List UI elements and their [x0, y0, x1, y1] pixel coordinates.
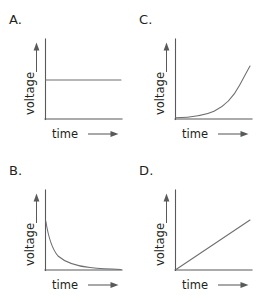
panel-b-curve-exponential-decay	[46, 221, 121, 269]
panel-d-x-label: time	[182, 278, 208, 292]
panel-d-plot: voltage time	[130, 151, 259, 302]
panel-b-y-arrow-head	[34, 194, 40, 202]
panel-b-x-arrow-head	[111, 282, 119, 288]
panel-a-x-label: time	[52, 127, 78, 141]
panel-d: D. voltage time	[130, 151, 259, 302]
panel-a-y-arrow-head	[34, 43, 40, 51]
panel-d-y-arrow-head	[164, 194, 170, 202]
panel-c-y-label: voltage	[153, 72, 167, 115]
panel-c-x-arrow-head	[241, 131, 249, 137]
panel-a: A. voltage time	[0, 0, 129, 151]
panel-c: C. voltage time	[130, 0, 259, 151]
panel-b-x-label: time	[52, 278, 78, 292]
panel-d-x-arrow-head	[241, 282, 249, 288]
panel-d-y-label: voltage	[153, 223, 167, 266]
panel-b: B. voltage time	[0, 151, 129, 302]
panel-a-y-label: voltage	[23, 72, 37, 115]
panel-b-plot: voltage time	[0, 151, 129, 302]
panel-a-x-arrow-head	[111, 131, 119, 137]
panel-c-curve-exponential-growth	[176, 66, 251, 118]
panel-a-plot: voltage time	[0, 0, 129, 151]
panel-c-x-label: time	[182, 127, 208, 141]
panel-c-plot: voltage time	[130, 0, 259, 151]
panel-d-curve-linear	[176, 220, 250, 270]
panel-b-y-label: voltage	[23, 223, 37, 266]
panel-c-y-arrow-head	[164, 43, 170, 51]
physics-voltage-time-figure: A. voltage time C.	[0, 0, 259, 302]
